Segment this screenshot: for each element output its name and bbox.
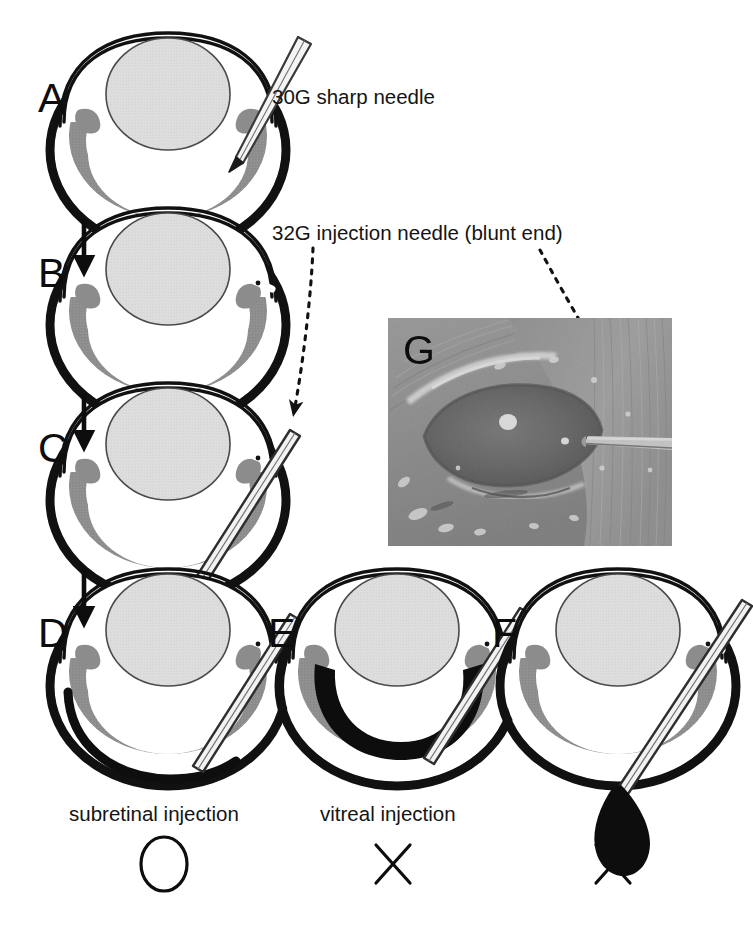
- callout-sharp-needle: 30G sharp needle: [272, 86, 435, 109]
- panel-letter-c: C: [38, 428, 68, 469]
- panel-letter-d: D: [38, 613, 68, 654]
- leak-droplet: [594, 785, 650, 876]
- panel-letter-a: A: [38, 78, 65, 119]
- callout-blunt-needle: 32G injection needle (blunt end): [272, 222, 563, 245]
- panel-letter-b: B: [38, 253, 65, 294]
- verdict-vitreal-cross: [376, 845, 410, 883]
- caption-vitreal-injection: vitreal injection: [320, 803, 456, 826]
- verdict-marks: [141, 837, 630, 891]
- page-bottom-strip: [0, 915, 753, 929]
- panel-letter-e: E: [268, 613, 295, 654]
- panel-letter-f: F: [492, 613, 517, 654]
- caption-subretinal-injection: subretinal injection: [69, 803, 239, 826]
- figure-root: A B C D E F G 30G sharp needle 32G injec…: [0, 0, 753, 929]
- panel-letter-g: G: [403, 330, 435, 371]
- leader-to-panel-c: [294, 248, 313, 412]
- verdict-subretinal-circle: [141, 837, 187, 891]
